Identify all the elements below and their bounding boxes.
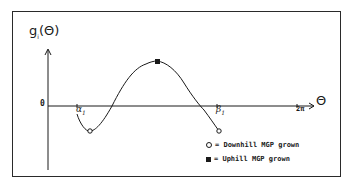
- legend-item-downhill: = Downhill MGP grown: [206, 138, 299, 152]
- uphill-marker-icon: [155, 59, 160, 64]
- curve: [77, 61, 219, 131]
- y-axis-label: gi(Θ): [29, 23, 59, 40]
- downhill-marker-icon: [88, 129, 92, 133]
- legend-label: = Downhill MGP grown: [215, 141, 299, 149]
- open-circle-icon: [206, 142, 212, 148]
- two-pi-label: 2π: [296, 105, 304, 113]
- beta-label: β1: [216, 104, 225, 116]
- alpha-label: α1: [76, 104, 86, 116]
- filled-square-icon: [206, 157, 211, 162]
- origin-label: 0: [40, 99, 45, 108]
- legend: = Downhill MGP grown = Uphill MGP grown: [206, 138, 299, 166]
- downhill-marker-icon: [217, 129, 221, 133]
- legend-item-uphill: = Uphill MGP grown: [206, 152, 299, 166]
- legend-label: = Uphill MGP grown: [214, 155, 290, 163]
- x-axis-label: Θ: [316, 93, 326, 108]
